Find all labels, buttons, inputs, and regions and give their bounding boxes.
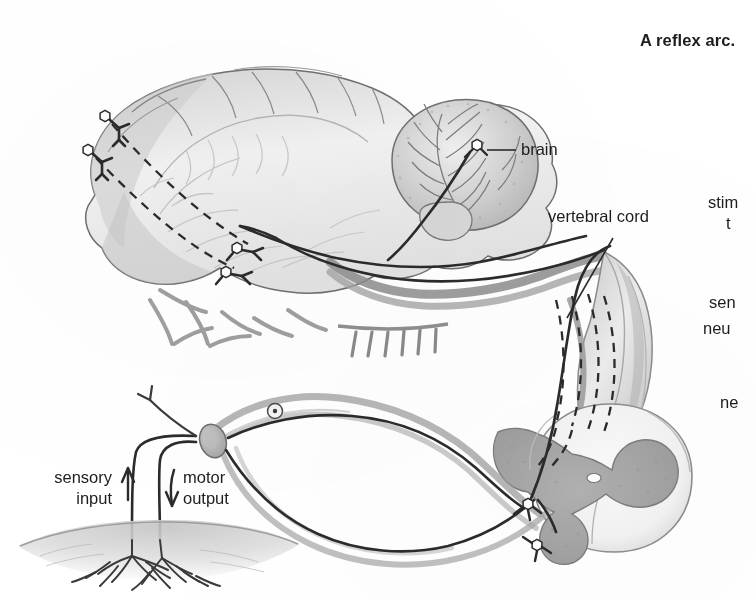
truncated-label-column: stim t sen neu ne [690, 0, 756, 600]
spinal-cord-cross-section [494, 404, 693, 564]
label-motor-output-line1: motor [183, 468, 225, 486]
label-sensory-input-line1: sensory [0, 468, 112, 486]
truncated-label-sensory-line1: sen [709, 293, 736, 311]
brain-group [86, 67, 606, 356]
reflex-arc-figure: A reflex arc. brain vertebral cord senso… [0, 0, 756, 600]
reflex-arc-illustration [0, 0, 756, 600]
label-sensory-input-line2: input [0, 489, 112, 507]
label-brain: brain [521, 140, 558, 158]
truncated-label-nerve: ne [720, 393, 738, 411]
truncated-label-stimulus-line1: stim [708, 193, 738, 211]
truncated-label-stimulus-line2: t [726, 214, 731, 232]
label-motor-output-line2: output [183, 489, 229, 507]
label-vertebral-cord: vertebral cord [548, 207, 649, 225]
direction-arrows [122, 468, 178, 506]
skin-tissue [18, 520, 300, 590]
truncated-label-neuron-line2: neu [703, 319, 731, 337]
